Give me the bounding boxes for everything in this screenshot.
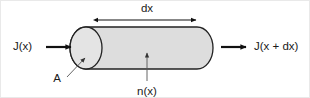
flux-in-label: J(x) [13, 40, 32, 52]
flux-in-group: J(x) [13, 40, 71, 52]
area-label: A [53, 72, 61, 84]
cylinder-shape [70, 27, 213, 69]
dx-label: dx [141, 2, 153, 14]
thickness-dimension: dx [98, 2, 196, 20]
flux-out-label: J(x + dx) [254, 40, 299, 52]
cylinder-flux-diagram: dx J(x) J(x + dx) A n(x) [1, 1, 310, 98]
figure-container: dx J(x) J(x + dx) A n(x) [0, 0, 310, 98]
flux-out-group: J(x + dx) [221, 40, 299, 52]
density-label: n(x) [137, 85, 157, 97]
cylinder-left-face [70, 27, 102, 69]
